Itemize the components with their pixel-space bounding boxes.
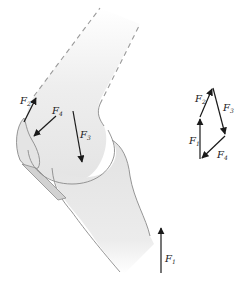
label-F3-knee: F3: [80, 130, 91, 141]
knee-force-diagram: [0, 0, 246, 281]
label-sub: 2: [27, 100, 31, 107]
label-base: F: [217, 149, 224, 160]
label-base: F: [195, 93, 202, 104]
label-base: F: [80, 129, 87, 140]
label-sub: 2: [202, 98, 206, 105]
label-sub: 3: [87, 134, 91, 141]
label-base: F: [223, 102, 230, 113]
label-sub: 1: [172, 258, 176, 265]
label-sub: 3: [230, 107, 234, 114]
label-F1-knee: F1: [165, 254, 176, 265]
label-sub: 1: [196, 140, 200, 147]
label-F3-polygon: F3: [223, 103, 234, 114]
label-F4-polygon: F4: [217, 150, 228, 161]
label-base: F: [20, 95, 27, 106]
label-base: F: [52, 105, 59, 116]
label-F2-polygon: F2: [195, 94, 206, 105]
label-F4-knee: F4: [52, 106, 63, 117]
label-sub: 4: [224, 154, 228, 161]
label-base: F: [165, 253, 172, 264]
label-base: F: [189, 135, 196, 146]
label-F1-polygon: F1: [189, 136, 200, 147]
label-F2-knee: F2: [20, 96, 31, 107]
label-sub: 4: [59, 110, 63, 117]
